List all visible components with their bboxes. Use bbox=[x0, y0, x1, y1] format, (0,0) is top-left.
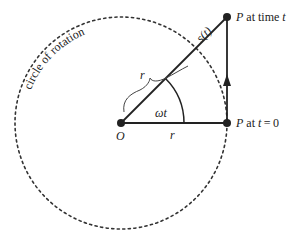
rotation-diagram: circle of rotation O r r ωt s(t) P at ti… bbox=[0, 0, 296, 236]
angle-label: ωt bbox=[155, 106, 167, 120]
p-time-zero-label: P at t = 0 bbox=[235, 116, 279, 130]
circle-label: circle of rotation bbox=[21, 24, 87, 91]
p-time-t-point bbox=[223, 13, 231, 21]
angle-arc bbox=[166, 79, 185, 124]
radius-label-bottom: r bbox=[170, 128, 175, 142]
p-time-t-label: P at time t bbox=[235, 10, 286, 24]
p-time-zero-point bbox=[223, 119, 231, 127]
arrow-up-icon bbox=[223, 74, 231, 86]
radius-label-brace: r bbox=[140, 68, 145, 82]
origin-label: O bbox=[116, 129, 125, 143]
origin-point bbox=[117, 119, 125, 127]
arc-length-label: s(t) bbox=[193, 24, 214, 45]
